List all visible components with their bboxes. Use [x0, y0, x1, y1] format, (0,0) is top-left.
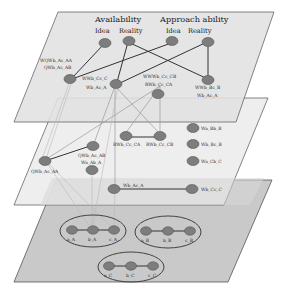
sub-idea-2: Idea	[166, 27, 181, 35]
node-wb-ac	[108, 185, 120, 194]
lower-middle-band	[40, 178, 264, 205]
node-availability-idea	[99, 39, 111, 48]
node-top-left	[64, 75, 76, 84]
node-a-a	[67, 226, 78, 234]
node-approach-reality	[202, 38, 214, 47]
node-qwb-ab	[87, 142, 99, 151]
node-c-b	[185, 227, 196, 235]
node-wb-cc	[186, 185, 198, 194]
heading-approach-ability: Approach ability	[159, 14, 229, 24]
node-top-right-mid	[152, 90, 164, 99]
node-top-right	[202, 76, 214, 85]
node-qwb-aa	[39, 157, 51, 166]
node-a-b	[141, 227, 152, 235]
sub-idea-1: Idea	[95, 27, 110, 35]
node-wa-cb	[187, 157, 199, 166]
node-wb-bc	[187, 140, 199, 149]
sub-reality-2: Reality	[188, 27, 212, 35]
node-availability-reality	[123, 37, 135, 46]
node-top-mid	[110, 80, 122, 89]
node-c-c	[148, 262, 159, 270]
multilayer-network-diagram: Availability Approach ability Idea Reali…	[0, 0, 284, 295]
heading-availability: Availability	[94, 14, 142, 24]
node-rwb-ca	[120, 132, 132, 141]
node-b-c	[126, 262, 137, 270]
node-approach-idea	[166, 37, 178, 46]
node-wa-bb	[187, 124, 199, 133]
node-b-a	[88, 226, 99, 234]
sub-reality-1: Reality	[119, 27, 143, 35]
node-wa-ab	[86, 166, 98, 175]
node-rwb-cb	[154, 132, 166, 141]
node-c-a	[109, 226, 120, 234]
node-a-c	[104, 262, 115, 270]
node-b-b	[163, 227, 174, 235]
